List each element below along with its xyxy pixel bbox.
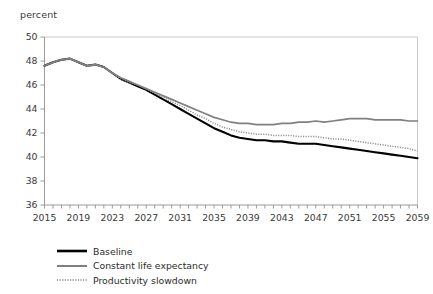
- y-tick-label: 50: [26, 31, 38, 42]
- x-tick-label: 2015: [33, 212, 57, 223]
- x-tick-label: 2027: [134, 212, 158, 223]
- x-tick-label: 2019: [67, 212, 91, 223]
- series-line-productivity-slowdown: [45, 59, 418, 151]
- y-tick-label: 42: [26, 127, 38, 138]
- legend-item-constant-life-expectancy: Constant life expectancy: [57, 260, 209, 272]
- legend-item-baseline: Baseline: [57, 245, 209, 257]
- legend-label-constant-life-expectancy: Constant life expectancy: [93, 260, 209, 271]
- chart-legend: Baseline Constant life expectancy Produc…: [57, 245, 209, 286]
- series-line-constant-life-expectancy: [45, 59, 418, 125]
- series-line-baseline: [45, 59, 418, 159]
- legend-label-productivity-slowdown: Productivity slowdown: [93, 275, 197, 286]
- x-tick-label: 2055: [372, 212, 396, 223]
- x-tick-label: 2039: [236, 212, 260, 223]
- x-tick-label: 2043: [270, 212, 294, 223]
- y-tick-label: 38: [26, 175, 38, 186]
- y-tick-label: 46: [26, 79, 38, 90]
- legend-swatch-productivity-slowdown: [57, 275, 87, 285]
- x-tick-label: 2051: [338, 212, 362, 223]
- x-tick-label: 2035: [202, 212, 226, 223]
- x-tick-label: 2047: [304, 212, 328, 223]
- y-tick-label: 40: [26, 151, 38, 162]
- legend-item-productivity-slowdown: Productivity slowdown: [57, 274, 209, 286]
- y-tick-label: 36: [26, 199, 38, 210]
- x-tick-label: 2059: [406, 212, 430, 223]
- x-tick-label: 2023: [100, 212, 124, 223]
- legend-label-baseline: Baseline: [93, 246, 132, 257]
- chart-figure: percent 36384042444648502015201920232027…: [0, 0, 433, 294]
- series-layer: [45, 59, 418, 159]
- x-tick-label: 2031: [168, 212, 192, 223]
- legend-swatch-constant-life-expectancy: [57, 261, 87, 271]
- axes-layer: [41, 37, 418, 209]
- y-tick-label: 48: [26, 55, 38, 66]
- tick-label-layer: 3638404244464850201520192023202720312035…: [26, 31, 430, 223]
- y-tick-label: 44: [26, 103, 38, 114]
- legend-swatch-baseline: [57, 246, 87, 256]
